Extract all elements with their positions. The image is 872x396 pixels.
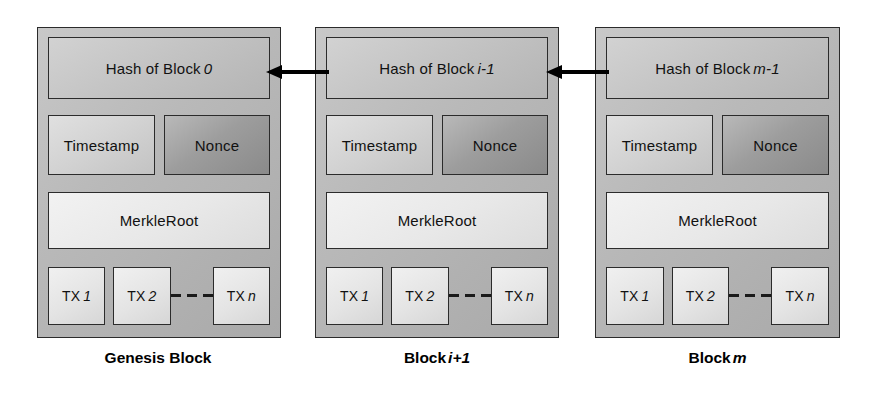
- tx-label: TX: [505, 288, 523, 304]
- caption-block-i-plus-1: Blocki+1: [315, 349, 559, 367]
- tx-index: 2: [146, 288, 157, 304]
- arrow-shaft: [557, 70, 609, 74]
- transaction-box-1: TX1: [606, 267, 664, 325]
- caption-text: Genesis Block: [105, 349, 212, 366]
- hash-variable: m-1: [750, 60, 779, 77]
- block-genesis[interactable]: Hash of Block0 Timestamp Nonce MerkleRoo…: [37, 27, 281, 338]
- dash-icon: [745, 294, 755, 297]
- timestamp-field: Timestamp: [606, 115, 713, 175]
- tx-index: 1: [358, 288, 369, 304]
- nonce-field: Nonce: [164, 115, 270, 175]
- dash-icon: [187, 294, 197, 297]
- tx-index: 1: [639, 288, 650, 304]
- transaction-row: TX1 TX2 TXn: [48, 265, 270, 327]
- arrow-shaft: [277, 70, 329, 74]
- tx-label: TX: [62, 288, 80, 304]
- timestamp-nonce-row: Timestamp Nonce: [606, 115, 829, 175]
- caption-text: Block: [688, 349, 730, 366]
- transaction-box-2: TX2: [391, 267, 448, 325]
- transaction-box-n: TXn: [491, 267, 548, 325]
- transaction-row: TX1 TX2 TXn: [606, 265, 829, 327]
- dash-icon: [171, 294, 181, 297]
- dash-icon: [449, 294, 459, 297]
- caption-variable: [211, 349, 213, 366]
- tx-index: n: [245, 288, 256, 304]
- tx-label: TX: [405, 288, 423, 304]
- block-m[interactable]: Hash of Blockm-1 Timestamp Nonce MerkleR…: [595, 27, 840, 338]
- tx-label: TX: [620, 288, 638, 304]
- tx-index: n: [523, 288, 534, 304]
- merkle-root-field: MerkleRoot: [48, 192, 270, 249]
- blockchain-diagram: Hash of Block0 Timestamp Nonce MerkleRoo…: [0, 0, 872, 396]
- timestamp-field: Timestamp: [48, 115, 155, 175]
- hash-variable: 0: [201, 60, 213, 77]
- dash-icon: [203, 294, 213, 297]
- transaction-box-n: TXn: [771, 267, 829, 325]
- tx-label: TX: [686, 288, 704, 304]
- hash-variable: i-1: [474, 60, 494, 77]
- timestamp-nonce-row: Timestamp Nonce: [48, 115, 270, 175]
- dash-icon: [465, 294, 475, 297]
- hash-of-previous-block-field: Hash of Blockm-1: [606, 37, 829, 99]
- caption-variable: i+1: [446, 349, 470, 366]
- tx-ellipsis-dashes: [449, 294, 491, 297]
- hash-label: Hash of Block: [106, 60, 201, 77]
- caption-text: Block: [404, 349, 446, 366]
- caption-variable: m: [731, 349, 747, 366]
- transaction-box-2: TX2: [113, 267, 170, 325]
- tx-index: 2: [424, 288, 435, 304]
- nonce-field: Nonce: [722, 115, 829, 175]
- tx-ellipsis-dashes: [729, 294, 771, 297]
- dash-icon: [761, 294, 771, 297]
- caption-block-m: Blockm: [595, 349, 840, 367]
- dash-icon: [729, 294, 739, 297]
- tx-label: TX: [785, 288, 803, 304]
- hash-label: Hash of Block: [655, 60, 750, 77]
- tx-label: TX: [340, 288, 358, 304]
- transaction-box-n: TXn: [213, 267, 270, 325]
- arrow-head: [266, 65, 282, 79]
- timestamp-field: Timestamp: [326, 115, 433, 175]
- tx-index: 1: [80, 288, 91, 304]
- tx-label: TX: [227, 288, 245, 304]
- transaction-row: TX1 TX2 TXn: [326, 265, 548, 327]
- timestamp-nonce-row: Timestamp Nonce: [326, 115, 548, 175]
- transaction-box-1: TX1: [326, 267, 383, 325]
- transaction-box-2: TX2: [672, 267, 730, 325]
- tx-label: TX: [127, 288, 145, 304]
- merkle-root-field: MerkleRoot: [326, 192, 548, 249]
- tx-index: n: [804, 288, 815, 304]
- arrow-block1-to-block0-icon: [266, 65, 329, 79]
- block-i-plus-1[interactable]: Hash of Blocki-1 Timestamp Nonce MerkleR…: [315, 27, 559, 338]
- nonce-field: Nonce: [442, 115, 548, 175]
- hash-of-previous-block-field: Hash of Blocki-1: [326, 37, 548, 99]
- dash-icon: [481, 294, 491, 297]
- hash-label: Hash of Block: [379, 60, 474, 77]
- arrow-head: [546, 65, 562, 79]
- tx-ellipsis-dashes: [171, 294, 213, 297]
- tx-index: 2: [704, 288, 715, 304]
- transaction-box-1: TX1: [48, 267, 105, 325]
- caption-block-genesis: Genesis Block: [37, 349, 281, 367]
- merkle-root-field: MerkleRoot: [606, 192, 829, 249]
- arrow-block2-to-block1-icon: [546, 65, 609, 79]
- hash-of-previous-block-field: Hash of Block0: [48, 37, 270, 99]
